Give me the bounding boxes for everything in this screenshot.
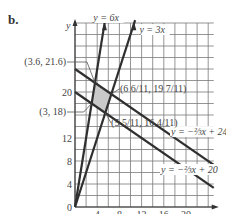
series-label: y = −⅔x + 24 <box>170 126 226 137</box>
y-axis-arrow <box>73 19 78 26</box>
y-tick-label: 20 <box>62 87 72 98</box>
y-tick-label: 0 <box>67 202 72 213</box>
series-line <box>75 20 105 207</box>
point-annotation: (3, 18) <box>39 106 66 118</box>
point-annotation: (5 5/11, 16 4/11) <box>111 117 177 129</box>
point-annotation: (6 6/11, 19 7/11) <box>120 83 186 95</box>
x-tick-label: 20 <box>181 209 191 214</box>
y-tick-label: 12 <box>62 133 72 144</box>
series-lines <box>75 20 214 207</box>
y-axis-label: y <box>65 20 71 31</box>
series-label: y = 6x <box>92 12 119 23</box>
chart: y 048122048121620 y = 6xy = 3xy = −⅔x + … <box>0 0 226 214</box>
grid <box>75 23 214 207</box>
x-tick-label: 8 <box>117 209 122 214</box>
leader-line <box>67 104 92 113</box>
x-axis-arrow <box>212 205 219 210</box>
x-tick-label: 4 <box>95 209 100 214</box>
y-tick-label: 8 <box>67 156 72 167</box>
x-tick-label: 16 <box>159 209 169 214</box>
series-label: y = 3x <box>138 24 165 35</box>
series-label: y = −⅔x + 20 <box>160 164 218 175</box>
y-tick-label: 4 <box>67 179 72 190</box>
point-annotation: (3.6, 21.6) <box>24 56 66 68</box>
x-tick-label: 12 <box>137 209 147 214</box>
